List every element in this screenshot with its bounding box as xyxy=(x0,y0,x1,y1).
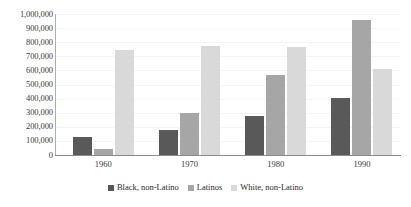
bar xyxy=(245,116,264,155)
bar-group xyxy=(245,14,306,155)
y-axis-tick-label: 200,000 xyxy=(1,122,53,131)
bar xyxy=(331,98,350,155)
bar xyxy=(352,20,371,155)
legend-label: Black, non-Latino xyxy=(117,183,179,192)
legend-item[interactable]: White, non-Latino xyxy=(231,183,303,192)
y-axis-tick-label: 1,000,000 xyxy=(1,10,53,19)
x-axis-line xyxy=(55,155,401,156)
legend-swatch-icon xyxy=(231,185,237,191)
bar xyxy=(115,50,134,155)
bar xyxy=(266,75,285,155)
legend-label: White, non-Latino xyxy=(240,183,303,192)
legend-swatch-icon xyxy=(108,185,114,191)
bar-chart: 1,000,000900,000800,000700,000600,000500… xyxy=(0,0,411,207)
y-axis-tick-label: 600,000 xyxy=(1,66,53,75)
y-axis-tick-label: 500,000 xyxy=(1,80,53,89)
y-axis-tick-label: 700,000 xyxy=(1,52,53,61)
bar-group xyxy=(331,14,392,155)
y-axis-tick-label: 300,000 xyxy=(1,108,53,117)
plot-area xyxy=(55,14,400,155)
bar xyxy=(73,137,92,155)
bar xyxy=(373,69,392,155)
legend-item[interactable]: Black, non-Latino xyxy=(108,183,179,192)
x-axis-tick-label: 1980 xyxy=(236,159,316,169)
y-axis-tick-label: 400,000 xyxy=(1,94,53,103)
chart-legend: Black, non-LatinoLatinosWhite, non-Latin… xyxy=(0,183,411,192)
bar-group xyxy=(73,14,134,155)
y-axis-tick-label: 800,000 xyxy=(1,38,53,47)
y-axis-tick-label: 100,000 xyxy=(1,136,53,145)
legend-label: Latinos xyxy=(197,183,223,192)
bar xyxy=(180,113,199,155)
y-axis-tick-label: 0 xyxy=(1,151,53,160)
y-axis-tick-labels: 1,000,000900,000800,000700,000600,000500… xyxy=(0,0,53,207)
bar-group xyxy=(159,14,220,155)
bar xyxy=(287,47,306,155)
y-axis-tick-label: 900,000 xyxy=(1,24,53,33)
bar xyxy=(94,149,113,155)
legend-item[interactable]: Latinos xyxy=(188,183,223,192)
legend-swatch-icon xyxy=(188,185,194,191)
bar xyxy=(159,130,178,155)
bar xyxy=(201,46,220,155)
x-axis-tick-label: 1960 xyxy=(63,159,143,169)
x-axis-tick-label: 1990 xyxy=(322,159,402,169)
x-axis-tick-label: 1970 xyxy=(149,159,229,169)
